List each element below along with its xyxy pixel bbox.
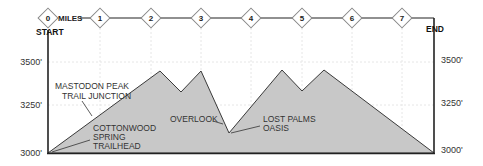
mile-marker-2: 2 <box>141 8 161 28</box>
end-label: END <box>426 24 444 34</box>
mile-label: 4 <box>249 14 254 23</box>
mile-label: 6 <box>350 14 355 23</box>
miles-axis-label: MILES <box>58 14 83 23</box>
y-tick-label: 3000' <box>20 148 42 158</box>
y-tick-label: 3250' <box>20 100 42 110</box>
mile-marker-6: 6 <box>342 8 362 28</box>
annotation-text: MASTODON PEAK <box>55 81 129 91</box>
annotation-text: TRAIL JUNCTION <box>62 91 131 101</box>
y-tick-label: 3500' <box>441 55 463 65</box>
mile-label: 5 <box>300 14 305 23</box>
right-y-ticks: 3500' 3250' 3000' <box>441 55 463 155</box>
mile-label: 7 <box>400 14 405 23</box>
mile-marker-0: 0 <box>38 8 58 28</box>
y-tick-label: 3500' <box>20 57 42 67</box>
y-tick-label: 3000' <box>441 145 463 155</box>
mile-marker-5: 5 <box>292 8 312 28</box>
mile-marker-7: 7 <box>392 8 412 28</box>
elevation-profile-chart: 0 MILES 1 2 3 4 5 6 7 ST <box>0 0 483 166</box>
mile-label: 1 <box>98 14 103 23</box>
mile-label: 2 <box>149 14 154 23</box>
mile-label: 3 <box>199 14 204 23</box>
start-label: START <box>36 27 65 37</box>
mile-marker-4: 4 <box>241 8 261 28</box>
mile-label: 0 <box>46 14 51 23</box>
mile-marker-1: 1 <box>90 8 110 28</box>
left-y-ticks: 3500' 3250' 3000' <box>20 57 42 158</box>
mile-marker-3: 3 <box>191 8 211 28</box>
annotation-text: OASIS <box>263 123 289 133</box>
annotation-overlook: OVERLOOK <box>170 114 223 124</box>
annotation-text: TRAILHEAD <box>93 141 141 151</box>
annotation-text: OVERLOOK <box>170 114 218 124</box>
y-tick-label: 3250' <box>441 98 463 108</box>
